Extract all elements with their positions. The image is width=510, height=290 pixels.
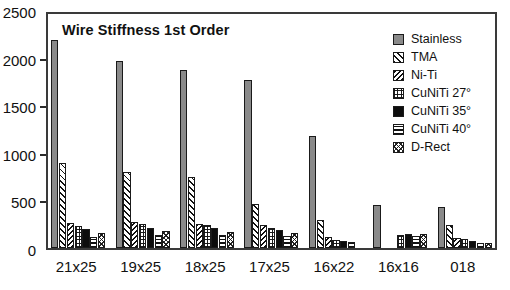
bar (461, 239, 468, 248)
x-axis: 21x2519x2518x2517x2516x2216x16018 (46, 252, 497, 288)
bar (203, 225, 210, 248)
y-tick-label: 1500 (3, 100, 36, 115)
legend-label: D-Rect (411, 141, 450, 154)
bar (276, 230, 283, 248)
bar (309, 136, 316, 248)
bar (244, 80, 251, 249)
legend-item: CuNiTi 27° (393, 84, 497, 102)
bar (438, 207, 445, 248)
bar (348, 242, 355, 248)
legend-label: CuNiTi 27° (411, 87, 471, 100)
bar-group (306, 14, 370, 248)
bar (188, 177, 195, 248)
wire-stiffness-bar-chart: 05001000150020002500 Wire Stiffness 1st … (0, 0, 510, 290)
bar (211, 228, 218, 248)
plot-area: Wire Stiffness 1st Order StainlessTMANi-… (46, 12, 497, 250)
bar (283, 236, 290, 248)
bar (469, 241, 476, 248)
x-tick-label: 21x25 (56, 258, 97, 275)
legend-item: D-Rect (393, 138, 497, 156)
bar (131, 222, 138, 248)
legend-item: CuNiTi 35° (393, 102, 497, 120)
bar (340, 241, 347, 248)
legend-swatch-icon (393, 88, 404, 99)
bar (227, 232, 234, 248)
bar (180, 70, 187, 248)
x-tick-label: 18x25 (185, 258, 226, 275)
bar (67, 223, 74, 248)
legend-label: CuNiTi 40° (411, 123, 471, 136)
bar (420, 234, 427, 248)
bar (98, 233, 105, 248)
legend-label: Ni-Ti (411, 69, 437, 82)
y-tick-label: 2000 (3, 52, 36, 67)
bar (59, 163, 66, 248)
bar (139, 224, 146, 248)
x-tick-label: 19x25 (120, 258, 161, 275)
bar (260, 225, 267, 248)
x-tick-label: 16x16 (378, 258, 419, 275)
bar (147, 228, 154, 248)
bar (373, 205, 380, 248)
bar (75, 226, 82, 248)
bar (412, 236, 419, 248)
bar (477, 243, 484, 248)
bar (325, 237, 332, 248)
bar (446, 225, 453, 248)
y-tick-label: 2500 (3, 5, 36, 20)
bar (453, 238, 460, 248)
bar (268, 228, 275, 248)
bar (123, 172, 130, 248)
bar (332, 240, 339, 248)
legend-swatch-icon (393, 70, 404, 81)
x-tick-label: 17x25 (249, 258, 290, 275)
legend-swatch-icon (393, 34, 404, 45)
legend-label: CuNiTi 35° (411, 105, 471, 118)
legend-swatch-icon (393, 124, 404, 135)
bar-group (177, 14, 241, 248)
bar (116, 61, 123, 248)
bar (291, 233, 298, 248)
bar (405, 234, 412, 248)
bar (252, 204, 259, 248)
bar (82, 229, 89, 248)
legend-swatch-icon (393, 142, 404, 153)
legend: StainlessTMANi-TiCuNiTi 27°CuNiTi 35°CuN… (393, 30, 497, 156)
bar (162, 231, 169, 248)
bar (90, 237, 97, 248)
bar-group (48, 14, 112, 248)
legend-swatch-icon (393, 106, 404, 117)
bar (155, 235, 162, 248)
bar-group (112, 14, 176, 248)
y-tick-label: 500 (11, 195, 36, 210)
legend-item: CuNiTi 40° (393, 120, 497, 138)
legend-label: Stainless (411, 33, 462, 46)
legend-label: TMA (411, 51, 437, 64)
bar (317, 220, 324, 248)
bar (219, 235, 226, 248)
y-axis: 05001000150020002500 (0, 0, 46, 290)
bar (485, 243, 492, 248)
x-tick-label: 018 (450, 258, 475, 275)
y-tick-label: 1000 (3, 147, 36, 162)
bar-group (241, 14, 305, 248)
y-tick-label: 0 (28, 243, 36, 258)
legend-item: Stainless (393, 30, 497, 48)
legend-item: Ni-Ti (393, 66, 497, 84)
legend-swatch-icon (393, 52, 404, 63)
bar (51, 40, 58, 248)
x-tick-label: 16x22 (313, 258, 354, 275)
bar (196, 224, 203, 248)
legend-item: TMA (393, 48, 497, 66)
bar (397, 235, 404, 248)
